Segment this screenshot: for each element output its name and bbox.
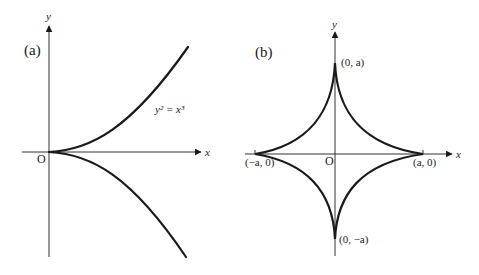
origin-label-b: O [325, 154, 334, 168]
panel-label-b: (b) [255, 44, 273, 61]
curve-astroid [255, 63, 423, 239]
figure: (a) y x O y² = x³ (b) y x O (0, a) (0, −… [0, 0, 479, 275]
y-axis-label-b: y [331, 18, 337, 30]
equation-label: y² = x³ [154, 103, 185, 115]
x-axis-label-a: x [204, 146, 210, 158]
panel-label-a: (a) [24, 42, 41, 59]
origin-label-a: O [37, 152, 46, 166]
point-label-top: (0, a) [341, 56, 365, 69]
y-axis-label-a: y [45, 10, 51, 22]
point-label-bottom: (0, −a) [339, 233, 369, 246]
point-label-right: (a, 0) [413, 156, 437, 169]
curve-semicubical-upper [49, 47, 188, 152]
point-label-left: (−a, 0) [245, 156, 275, 169]
panel-b: (b) y x O (0, a) (0, −a) (−a, 0) (a, 0) [245, 18, 461, 256]
x-axis-label-b: x [455, 148, 461, 160]
panel-a: (a) y x O y² = x³ [22, 10, 210, 257]
curve-semicubical-lower [49, 152, 186, 257]
